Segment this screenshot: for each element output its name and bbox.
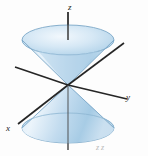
x-axis-label: x [6,124,10,133]
cone-graphic [0,0,148,156]
z-axis-label: z [68,3,72,12]
cropped-caption-text: z z [96,146,104,152]
y-axis-label: y [126,93,130,102]
cropped-caption-strip: z z [0,146,148,156]
upper-cone-front-shade [38,51,98,85]
cone-figure: z y x z z [0,0,148,156]
